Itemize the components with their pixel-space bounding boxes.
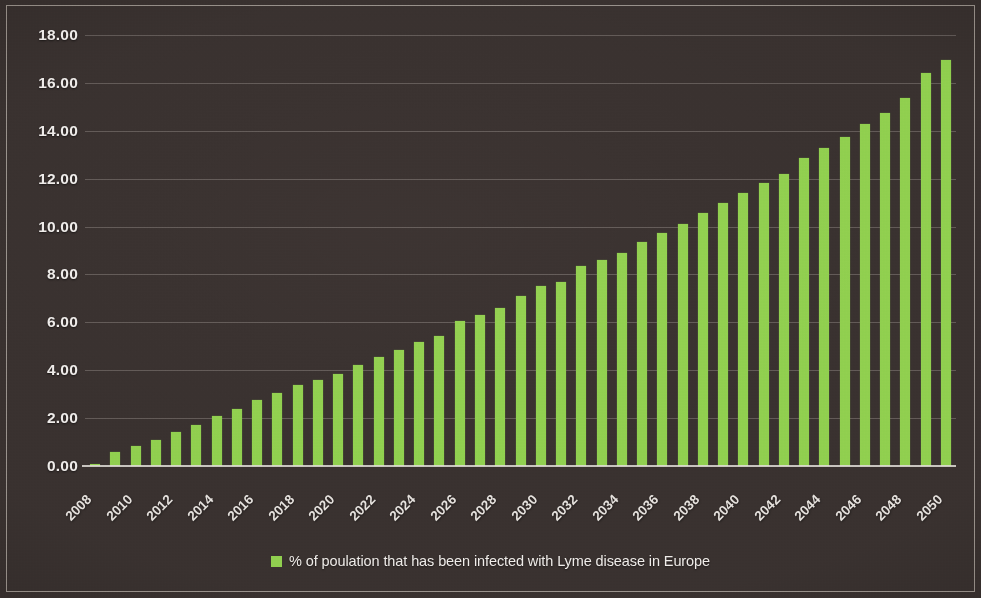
y-axis-tick-label: 8.00 [6,265,78,283]
y-axis-tick-label: 10.00 [6,218,78,236]
bar [333,374,343,466]
bar [293,385,303,466]
bar [171,432,181,466]
x-axis-tick-label: 2042 [751,492,783,524]
x-axis-tick-label: 2038 [670,492,702,524]
x-axis-tick-label: 2024 [387,492,419,524]
bar [353,365,363,466]
bar [698,213,708,466]
bar [252,400,262,466]
bar [191,425,201,466]
y-axis-tick-label: 16.00 [6,74,78,92]
bar [374,357,384,466]
x-axis-tick-label: 2012 [144,492,176,524]
bar [110,452,120,466]
bar [151,440,161,466]
x-axis-tick-label: 2046 [832,492,864,524]
bar [840,137,850,466]
bar [272,393,282,466]
bar [657,233,667,466]
y-axis-tick-label: 4.00 [6,361,78,379]
chart-legend: % of poulation that has been infected wi… [0,553,981,569]
x-axis-tick-label: 2010 [103,492,135,524]
x-axis-tick-label: 2048 [873,492,905,524]
y-axis: 18.0016.0014.0012.0010.008.006.004.002.0… [0,35,78,466]
x-axis: 2008201020122014201620182020202220242026… [85,466,956,528]
bar [799,158,809,466]
bar [576,266,586,466]
bar [536,286,546,466]
bar [495,308,505,466]
bar [556,282,566,466]
bar [414,342,424,467]
bar [212,416,222,466]
bar [941,60,951,466]
bar [455,321,465,466]
x-axis-tick-label: 2050 [913,492,945,524]
bar-series [85,35,956,466]
x-axis-tick-label: 2014 [184,492,216,524]
bar [516,296,526,466]
bar [880,113,890,466]
y-axis-tick-label: 6.00 [6,313,78,331]
y-axis-tick-label: 2.00 [6,409,78,427]
bar [232,409,242,466]
x-axis-tick-label: 2040 [711,492,743,524]
y-axis-tick-label: 12.00 [6,170,78,188]
x-axis-tick-label: 2016 [225,492,257,524]
plot-area [85,35,956,466]
bar [597,260,607,466]
x-axis-tick-label: 2022 [346,492,378,524]
x-axis-tick-label: 2034 [589,492,621,524]
y-axis-tick-label: 0.00 [6,457,78,475]
x-axis-tick-label: 2026 [427,492,459,524]
legend-color-swatch-icon [271,556,282,567]
x-axis-tick-label: 2028 [468,492,500,524]
x-axis-tick-label: 2020 [306,492,338,524]
bar [131,446,141,466]
y-axis-tick-label: 18.00 [6,26,78,44]
bar [678,224,688,466]
x-axis-tick-label: 2032 [549,492,581,524]
chart-window: 18.0016.0014.0012.0010.008.006.004.002.0… [0,0,981,598]
bar [759,183,769,466]
bar [738,193,748,466]
bar [900,98,910,466]
x-axis-tick-label: 2036 [630,492,662,524]
x-axis-tick-label: 2044 [792,492,824,524]
bar [779,174,789,466]
bar [475,315,485,466]
bar [313,380,323,466]
x-axis-tick-label: 2018 [265,492,297,524]
bar [860,124,870,466]
bar [637,242,647,466]
bar [617,253,627,466]
legend-label: % of poulation that has been infected wi… [289,553,710,569]
x-axis-tick-label: 2008 [63,492,95,524]
bar [718,203,728,466]
bar [819,148,829,466]
bar [394,350,404,466]
bar [921,73,931,466]
bar [434,336,444,466]
x-axis-tick-label: 2030 [508,492,540,524]
y-axis-tick-label: 14.00 [6,122,78,140]
